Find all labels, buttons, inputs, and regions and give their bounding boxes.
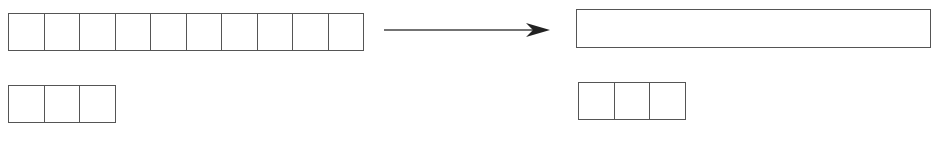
unit-cell — [650, 83, 685, 119]
merged-bar — [576, 9, 931, 48]
unit-cell — [579, 83, 615, 119]
unit-cell — [615, 83, 651, 119]
three-cell-strip-right — [578, 82, 686, 120]
